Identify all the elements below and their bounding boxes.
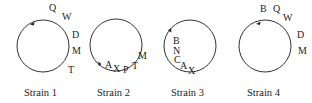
strain-2-arrow-icon (98, 62, 102, 67)
strain-4-caption: Strain 4 (247, 87, 281, 98)
gene-label: X (113, 63, 121, 74)
gene-label: Q (273, 3, 281, 14)
gene-label: D (297, 29, 304, 40)
gene-label: M (298, 45, 307, 56)
gene-label: W (62, 11, 72, 22)
strain-4-circle (239, 20, 291, 72)
gene-label: P (123, 64, 129, 75)
gene-label: A (180, 60, 188, 71)
strain-3-caption: Strain 3 (171, 87, 204, 98)
gene-label: T (132, 60, 138, 71)
gene-label: T (68, 64, 74, 75)
strain-1-circle (17, 20, 69, 72)
gene-label: M (138, 50, 147, 61)
strain-diagram: Q W D M T Strain 1 A X P T M Strain 2 B … (0, 0, 312, 103)
gene-label: D (72, 29, 79, 40)
strain-4-group: B Q W D M Strain 4 (239, 3, 307, 98)
gene-label: X (188, 65, 196, 76)
strain-2-caption: Strain 2 (97, 87, 130, 98)
gene-label: B (260, 3, 267, 14)
strain-4-arrow-icon (256, 22, 261, 26)
strain-1-caption: Strain 1 (24, 87, 57, 98)
gene-label: A (105, 59, 113, 70)
strain-2-group: A X P T M Strain 2 (90, 19, 147, 98)
strain-3-group: B N C A X Strain 3 (164, 20, 216, 98)
gene-label: Q (49, 2, 57, 13)
gene-label: M (72, 45, 81, 56)
gene-label: W (283, 12, 293, 23)
strain-1-group: Q W D M T Strain 1 (17, 2, 81, 98)
